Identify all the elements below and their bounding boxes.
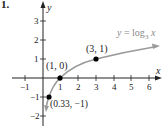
xtick-label: 2 (76, 82, 81, 92)
ytick-label: 2 (34, 35, 39, 45)
x-axis-label: x (155, 65, 161, 76)
curve-down-arrow-icon (44, 105, 49, 112)
chart: y x −1 1 2 3 4 5 6 3 2 1 −1 −2 (1, 0) (3… (0, 0, 164, 126)
x-axis-arrow-icon (155, 76, 162, 81)
point-label-3-1: (3, 1) (86, 43, 108, 55)
ytick-label: −2 (30, 111, 40, 121)
xtick-label: 3 (94, 82, 99, 92)
ytick-label: −1 (30, 92, 40, 102)
point-1-0 (57, 75, 62, 80)
xtick-label: 1 (58, 82, 63, 92)
point-label-033-m1: (0.33, −1) (50, 99, 88, 110)
point-label-1-0: (1, 0) (46, 60, 68, 72)
point-3-1 (93, 56, 98, 61)
x-axis (12, 75, 162, 81)
curve-label: y = log3 x (116, 27, 156, 41)
xtick-label: −1 (20, 82, 30, 92)
xtick-label: 5 (129, 82, 134, 92)
y-axis-arrow-icon (41, 1, 46, 8)
curve-right-arrow-icon (152, 44, 160, 50)
y-axis-label: y (46, 2, 52, 13)
xtick-label: 4 (112, 82, 117, 92)
ytick-label: 3 (34, 16, 39, 26)
xtick-label: 6 (147, 82, 152, 92)
ytick-label: 1 (34, 54, 39, 64)
